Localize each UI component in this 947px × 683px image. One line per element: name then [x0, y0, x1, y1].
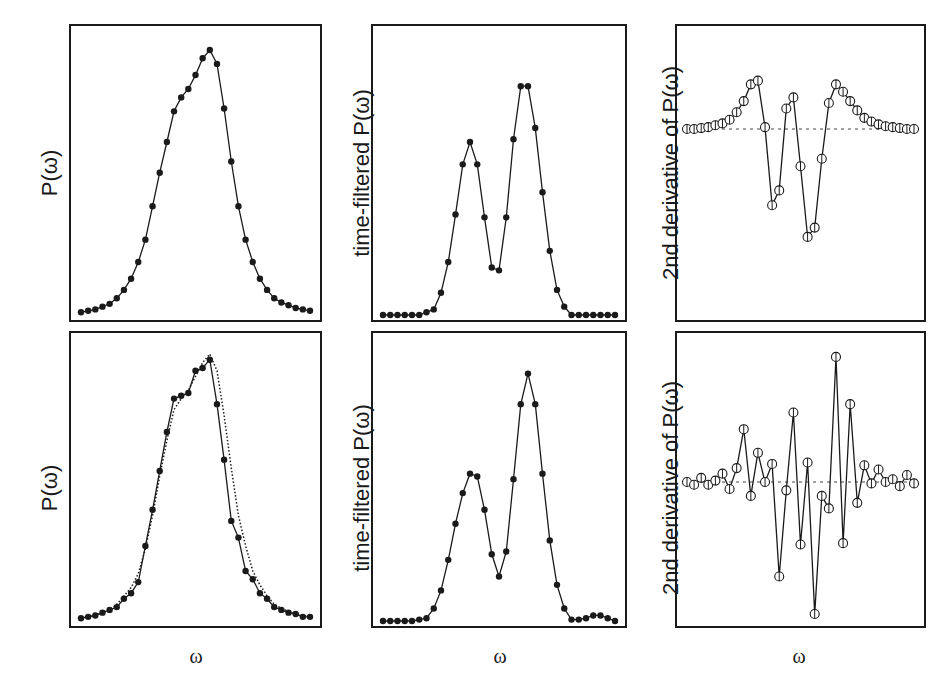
- data-point: [285, 609, 291, 615]
- data-point: [539, 470, 545, 476]
- data-point: [576, 312, 582, 318]
- data-point: [135, 579, 141, 585]
- series-line: [687, 357, 914, 614]
- data-point: [474, 473, 480, 479]
- data-point: [221, 457, 227, 463]
- data-point: [235, 534, 241, 540]
- data-point: [264, 596, 270, 602]
- data-point: [503, 214, 509, 220]
- data-point: [85, 308, 91, 314]
- data-point: [438, 289, 444, 295]
- data-point: [547, 248, 553, 254]
- series-line: [81, 50, 310, 312]
- ylabel-bottom-left: P(ω): [37, 448, 63, 528]
- data-point: [214, 61, 220, 67]
- data-point: [106, 301, 112, 307]
- data-point: [510, 136, 516, 142]
- ylabel-top-left: P(ω): [37, 133, 63, 213]
- data-point: [496, 267, 502, 273]
- data-point: [467, 470, 473, 476]
- data-point: [199, 55, 205, 61]
- data-point: [307, 308, 313, 314]
- data-point: [257, 276, 263, 282]
- data-point: [242, 568, 248, 574]
- xlabel-middle: ω: [480, 645, 520, 668]
- panel-bottom-left: [69, 331, 322, 628]
- data-point: [394, 312, 400, 318]
- data-point: [78, 309, 84, 315]
- data-point: [416, 616, 422, 622]
- plot-top-left: [71, 26, 320, 320]
- data-point: [228, 158, 234, 164]
- data-point: [532, 401, 538, 407]
- plot-top-right: [677, 26, 924, 320]
- data-point: [561, 303, 567, 309]
- data-point: [438, 587, 444, 593]
- data-point: [445, 259, 451, 265]
- data-point: [445, 557, 451, 563]
- data-point: [409, 312, 415, 318]
- data-point: [431, 306, 437, 312]
- data-point: [221, 105, 227, 111]
- data-point: [300, 614, 306, 620]
- data-point: [235, 203, 241, 209]
- data-point: [474, 161, 480, 167]
- data-point: [583, 615, 589, 621]
- data-point: [271, 295, 277, 301]
- data-point: [423, 309, 429, 315]
- data-point: [590, 312, 596, 318]
- data-point: [307, 614, 313, 620]
- data-point: [128, 276, 134, 282]
- data-point: [554, 287, 560, 293]
- ylabel-bottom-middle: time-filtered P(ω): [349, 388, 375, 588]
- data-point: [178, 393, 184, 399]
- data-point: [402, 312, 408, 318]
- data-point: [518, 401, 524, 407]
- data-point: [242, 236, 248, 242]
- data-point: [525, 370, 531, 376]
- data-point: [185, 390, 191, 396]
- data-point: [518, 83, 524, 89]
- xlabel-left: ω: [176, 645, 216, 668]
- data-point: [207, 47, 213, 53]
- ylabel-bottom-right: 2nd derivative of P(ω): [658, 363, 684, 613]
- series-line: [81, 354, 310, 618]
- plot-top-middle: [373, 26, 625, 320]
- data-point: [605, 312, 611, 318]
- data-point: [467, 139, 473, 145]
- series-line: [383, 86, 615, 315]
- series-line: [687, 81, 914, 237]
- data-point: [597, 312, 603, 318]
- data-point: [612, 312, 618, 318]
- data-point: [496, 573, 502, 579]
- data-point: [561, 605, 567, 611]
- ylabel-top-middle: time-filtered P(ω): [349, 73, 375, 273]
- data-point: [568, 616, 574, 622]
- series-line: [383, 374, 615, 621]
- data-point: [185, 86, 191, 92]
- data-point: [278, 299, 284, 305]
- xlabel-right: ω: [779, 645, 819, 668]
- plot-bottom-middle: [373, 333, 625, 626]
- data-point: [300, 306, 306, 312]
- data-point: [292, 305, 298, 311]
- panel-bottom-middle: [371, 331, 627, 628]
- data-point: [285, 302, 291, 308]
- data-point: [142, 236, 148, 242]
- data-point: [380, 312, 386, 318]
- data-point: [597, 612, 603, 618]
- data-point: [264, 287, 270, 293]
- ylabel-top-right: 2nd derivative of P(ω): [658, 48, 684, 298]
- data-point: [135, 259, 141, 265]
- plot-bottom-left: [71, 333, 320, 626]
- series-line: [81, 360, 310, 619]
- data-point: [481, 507, 487, 513]
- data-point: [228, 518, 234, 524]
- data-point: [481, 214, 487, 220]
- panel-top-left: [69, 24, 322, 322]
- data-point: [387, 312, 393, 318]
- data-point: [121, 287, 127, 293]
- data-point: [423, 615, 429, 621]
- data-point: [157, 170, 163, 176]
- data-point: [539, 189, 545, 195]
